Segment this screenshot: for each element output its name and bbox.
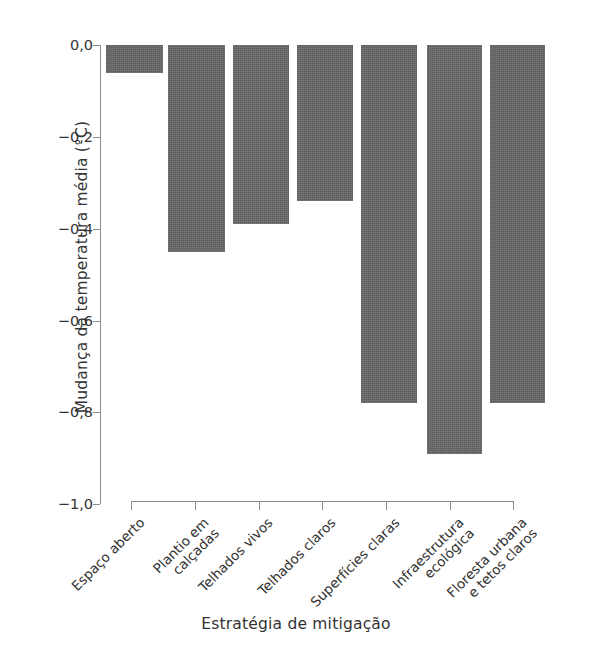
y-tick-label-3: −0,6 — [51, 313, 93, 329]
x-tick-label-line: Espaço aberto — [3, 515, 148, 656]
x-tick-mark-3 — [322, 501, 323, 510]
x-tick-label-line: Superfícies claras — [258, 515, 403, 656]
y-tick-label-0: 0,0 — [51, 37, 93, 53]
x-tick-label-0: Espaço aberto — [3, 515, 148, 656]
bar-4 — [361, 45, 417, 403]
x-axis-title: Estratégia de mitigação — [0, 615, 592, 633]
y-tick-label-2: −0,4 — [51, 221, 93, 237]
bar-5 — [427, 45, 482, 454]
x-tick-mark-4 — [386, 501, 387, 510]
y-tick-mark-1 — [93, 137, 100, 138]
x-tick-mark-5 — [450, 501, 451, 510]
y-tick-mark-5 — [93, 504, 100, 505]
y-tick-1: −0,2 — [45, 137, 93, 138]
y-axis-spine — [100, 45, 101, 504]
y-tick-3: −0,6 — [45, 321, 93, 322]
y-tick-mark-2 — [93, 229, 100, 230]
x-tick-mark-0 — [131, 501, 132, 510]
y-tick-mark-4 — [93, 412, 100, 413]
x-tick-label-4: Superfícies claras — [258, 515, 403, 656]
y-tick-label-1: −0,2 — [51, 129, 93, 145]
y-tick-5: −1,0 — [45, 504, 93, 505]
x-tick-mark-6 — [513, 501, 514, 510]
y-tick-mark-0 — [93, 45, 100, 46]
y-tick-mark-3 — [93, 321, 100, 322]
y-tick-0: 0,0 — [45, 45, 93, 46]
bar-3 — [297, 45, 353, 201]
y-tick-2: −0,4 — [45, 229, 93, 230]
y-tick-label-5: −1,0 — [51, 496, 93, 512]
bar-2 — [233, 45, 289, 224]
x-tick-mark-1 — [195, 501, 196, 510]
x-tick-label-line: Infraestrutura — [322, 515, 467, 656]
x-tick-label-line: Plantio em — [67, 515, 212, 656]
bar-0 — [106, 45, 163, 73]
bar-1 — [168, 45, 225, 252]
y-tick-label-4: −0,8 — [51, 404, 93, 420]
y-tick-4: −0,8 — [45, 412, 93, 413]
x-tick-mark-2 — [259, 501, 260, 510]
bar-6 — [490, 45, 545, 403]
bar-chart: Mudança da temperatura média (°C) 0,0 −0… — [0, 0, 592, 656]
